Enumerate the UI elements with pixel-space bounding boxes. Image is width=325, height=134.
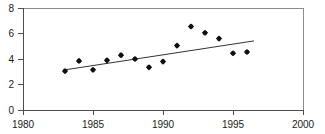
- data-point-core: [91, 68, 95, 72]
- data-point-core: [189, 24, 193, 28]
- data-point-core: [203, 31, 207, 35]
- data-point-core: [119, 53, 123, 57]
- data-point-group: [62, 23, 250, 74]
- x-tick-label-1985: 1985: [82, 119, 105, 130]
- y-tick-label-2: 2: [8, 79, 14, 90]
- data-point-core: [63, 69, 67, 73]
- x-tick-label-1995: 1995: [222, 119, 245, 130]
- y-tick-label-8: 8: [8, 3, 14, 14]
- x-tick-label-2000: 2000: [292, 119, 315, 130]
- data-point-core: [147, 65, 151, 69]
- y-tick-label-4: 4: [8, 54, 14, 65]
- data-point-core: [105, 58, 109, 62]
- x-tick-label-1980: 1980: [12, 119, 35, 130]
- chart-container: 8 6 4 2 0 1980 1985 1990 1995 2000: [0, 0, 325, 134]
- trend-line: [65, 41, 254, 70]
- data-point-core: [133, 57, 137, 61]
- data-point-core: [77, 59, 81, 63]
- data-point-core: [161, 59, 165, 63]
- data-point-core: [175, 43, 179, 47]
- scatter-chart: 8 6 4 2 0 1980 1985 1990 1995 2000: [0, 0, 325, 134]
- data-point-core: [245, 50, 249, 54]
- y-tick-label-6: 6: [8, 28, 14, 39]
- y-tick-label-0: 0: [8, 105, 14, 116]
- x-tick-label-1990: 1990: [152, 119, 175, 130]
- data-point-core: [231, 51, 235, 55]
- data-point-core: [217, 36, 221, 40]
